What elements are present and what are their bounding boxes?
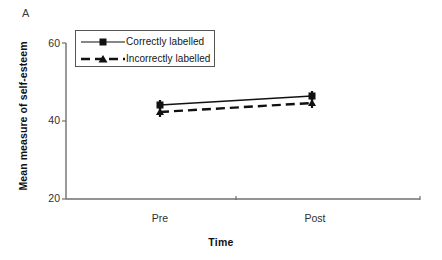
legend-label-correctly-labelled: Correctly labelled bbox=[126, 36, 204, 47]
legend-key-square-solid bbox=[80, 35, 126, 49]
plot-area bbox=[0, 0, 442, 260]
series-line-incorrectly-labelled bbox=[160, 103, 312, 112]
legend-key-triangle-dashed bbox=[80, 52, 126, 66]
legend-item-correctly-labelled: Correctly labelled bbox=[76, 33, 214, 50]
legend: Correctly labelled Incorrectly labelled bbox=[75, 30, 215, 67]
marker-post-incorrectly-labelled bbox=[308, 99, 316, 106]
chart-figure: A Mean measure of self-esteem Time 60 40… bbox=[0, 0, 442, 260]
legend-label-incorrectly-labelled: Incorrectly labelled bbox=[126, 53, 210, 64]
legend-item-incorrectly-labelled: Incorrectly labelled bbox=[76, 50, 214, 67]
